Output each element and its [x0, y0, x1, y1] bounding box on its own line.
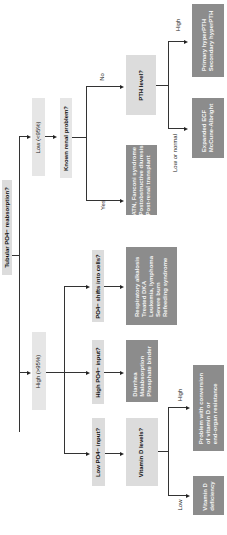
arrow-icon	[120, 285, 124, 289]
high-vertical	[64, 286, 65, 453]
low-input-question: Low PO4− input?	[92, 418, 105, 486]
root-question: Tubular PO4− reabsorption?	[2, 180, 12, 275]
edge-label-yes: Yes	[100, 200, 106, 210]
arrow-icon	[186, 406, 190, 410]
edge-label-no: No	[99, 73, 105, 81]
arrow-icon	[86, 285, 90, 289]
vitd-low-line	[168, 495, 188, 496]
root-connector	[12, 255, 19, 256]
arrow-icon	[184, 127, 188, 131]
vitd-vertical	[168, 407, 169, 496]
arrow-icon	[186, 494, 190, 498]
shifts-causes: Respiratory alkalosis Treated DKA Leukem…	[126, 247, 177, 325]
vitd-connector	[158, 451, 168, 452]
vitd-high-causes: Problem with conversion of vitamin D or …	[193, 365, 224, 451]
pth-connector	[156, 85, 168, 86]
arrow-icon	[120, 199, 124, 203]
branch-low: Low (<95%)	[32, 98, 45, 176]
root-question-label: Tubular PO4− reabsorption?	[4, 187, 11, 268]
root-trunk	[19, 136, 20, 432]
known-renal-question: Known renal problem?	[60, 98, 72, 178]
pth-high-causes: Primary hyperPTH Secondary hyperPTH	[192, 4, 224, 77]
arrow-icon	[120, 85, 124, 89]
arrow-icon	[27, 371, 31, 375]
renal-yes-causes: ATN, Fanconi syndrome Postobstructive di…	[126, 145, 157, 215]
arrow-icon	[86, 452, 90, 456]
shifts-line	[64, 286, 88, 287]
renal-connector	[72, 137, 86, 138]
edge-label-vitd-high: High	[177, 389, 183, 401]
arrow-icon	[86, 371, 90, 375]
high-input-causes: Diarrhea Malabsorption Phosphate binder	[126, 340, 158, 402]
low-input-line	[64, 453, 88, 454]
arrow-icon	[184, 40, 188, 44]
edge-label-high: High	[175, 19, 181, 31]
arrow-icon	[53, 135, 57, 139]
high-input-line	[64, 372, 88, 373]
pth-low-causes: Expanded ECF McCune-Albright	[192, 98, 224, 158]
renal-vertical	[86, 86, 87, 200]
renal-no-line	[86, 86, 122, 87]
high-to-split	[46, 372, 64, 373]
arrow-icon	[27, 135, 31, 139]
high-input-question: High PO4− input?	[92, 340, 104, 404]
edge-label-vitd-low: Low	[177, 499, 183, 510]
vitd-question: Vitamin D levels?	[126, 418, 158, 486]
vitd-high-line	[168, 407, 188, 408]
arrow-icon	[120, 452, 124, 456]
shifts-question: PO4− shifts into cells?	[92, 250, 104, 322]
vitd-low-causes: Vitamin D deficiency	[193, 476, 224, 515]
arrow-icon	[120, 371, 124, 375]
pth-level-question: PTH level?	[126, 55, 156, 115]
edge-label-low-or-normal: Low or normal	[172, 134, 178, 172]
branch-high: High (>95%)	[32, 332, 46, 410]
pth-vertical	[168, 41, 169, 128]
